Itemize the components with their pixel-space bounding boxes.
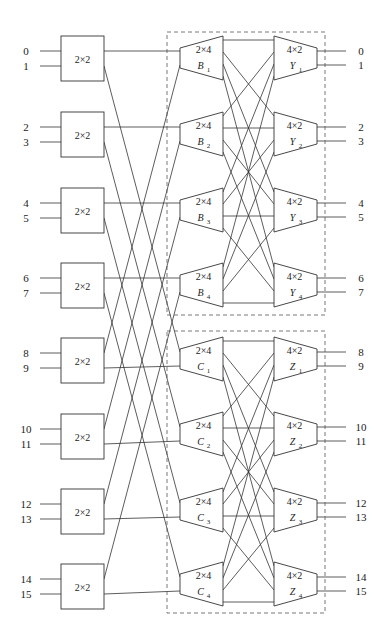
switch-label: 2×2 [75, 281, 91, 292]
output-label: 13 [356, 511, 368, 523]
mux-index-label: 2 [299, 442, 303, 450]
demux-module-C3 [180, 488, 223, 532]
input-label: 8 [23, 347, 29, 359]
input-label: 12 [21, 498, 32, 510]
mux-module-Z1 [274, 337, 317, 381]
switch-label: 2×2 [75, 356, 91, 367]
switch-label: 2×2 [75, 206, 91, 217]
demux-module-B1 [180, 36, 223, 80]
demux-index-label: 2 [207, 442, 211, 450]
mux-module-Y2 [274, 112, 317, 156]
mux-size-label: 4×2 [287, 271, 303, 282]
demux-index-label: 1 [207, 66, 211, 74]
demux-name-label: B [197, 212, 203, 223]
mux-size-label: 4×2 [287, 120, 303, 131]
mux-index-label: 1 [299, 66, 303, 74]
switch-to-demux-wire [104, 366, 180, 368]
demux-name-label: B [197, 60, 203, 71]
output-label: 11 [356, 435, 367, 447]
mux-index-label: 3 [299, 518, 303, 526]
switch-label: 2×2 [75, 130, 91, 141]
switch-label: 2×2 [75, 582, 91, 593]
output-label: 8 [358, 346, 364, 358]
demux-index-label: 4 [207, 293, 211, 301]
input-label: 14 [21, 573, 33, 585]
mux-index-label: 3 [299, 218, 303, 226]
demux-name-label: C [197, 586, 204, 597]
output-label: 15 [356, 585, 368, 597]
input-label: 7 [23, 287, 29, 299]
mux-index-label: 1 [299, 367, 303, 375]
output-label: 7 [358, 286, 364, 298]
demux-size-label: 2×4 [196, 196, 212, 207]
demux-module-C1 [180, 337, 223, 381]
demux-index-label: 4 [207, 592, 211, 600]
switch-nodes [61, 36, 317, 609]
demux-name-label: B [197, 136, 203, 147]
output-label: 9 [358, 360, 364, 372]
output-label: 3 [358, 135, 364, 147]
demux-name-label: C [197, 512, 204, 523]
mux-size-label: 4×2 [287, 196, 303, 207]
demux-size-label: 2×4 [196, 496, 212, 507]
mux-size-label: 4×2 [287, 496, 303, 507]
demux-name-label: C [197, 436, 204, 447]
demux-module-B2 [180, 112, 223, 156]
mux-size-label: 4×2 [287, 570, 303, 581]
demux-size-label: 2×4 [196, 44, 212, 55]
demux-name-label: B [197, 287, 203, 298]
switch-to-demux-wire [104, 517, 180, 519]
input-label: 13 [21, 513, 33, 525]
input-label: 10 [21, 423, 33, 435]
input-label: 6 [23, 272, 29, 284]
demux-module-B3 [180, 188, 223, 232]
demux-index-label: 2 [207, 142, 211, 150]
mux-module-Y3 [274, 188, 317, 232]
demux-module-C2 [180, 412, 223, 456]
demux-index-label: 3 [207, 218, 211, 226]
mux-module-Z3 [274, 488, 317, 532]
input-label: 2 [23, 121, 29, 133]
input-label: 1 [23, 60, 29, 72]
output-label: 14 [356, 571, 368, 583]
mux-size-label: 4×2 [287, 345, 303, 356]
output-label: 2 [358, 121, 364, 133]
demux-size-label: 2×4 [196, 271, 212, 282]
mux-size-label: 4×2 [287, 420, 303, 431]
switch-to-demux-wire [104, 441, 180, 444]
mux-module-Z2 [274, 412, 317, 456]
switch-label: 2×2 [75, 507, 91, 518]
demux-size-label: 2×4 [196, 420, 212, 431]
output-label: 10 [356, 421, 368, 433]
output-label: 5 [358, 211, 364, 223]
demux-size-label: 2×4 [196, 345, 212, 356]
mux-index-label: 4 [299, 293, 303, 301]
input-label: 3 [23, 136, 29, 148]
demux-size-label: 2×4 [196, 570, 212, 581]
mux-name-label: Z [290, 436, 296, 447]
demux-size-label: 2×4 [196, 120, 212, 131]
switch-label: 2×2 [75, 54, 91, 65]
demux-index-label: 3 [207, 518, 211, 526]
output-label: 0 [358, 45, 364, 57]
input-label: 11 [21, 438, 32, 450]
mux-name-label: Z [290, 361, 296, 372]
input-label: 0 [23, 45, 29, 57]
input-label: 9 [23, 362, 29, 374]
demux-module-B4 [180, 263, 223, 307]
mux-index-label: 4 [299, 592, 303, 600]
output-label: 6 [358, 272, 364, 284]
demux-name-label: C [197, 361, 204, 372]
input-label: 5 [23, 212, 29, 224]
output-label: 4 [358, 197, 364, 209]
mux-module-Z4 [274, 562, 317, 606]
input-label: 4 [23, 197, 29, 209]
input-label: 15 [21, 588, 33, 600]
mux-index-label: 2 [299, 142, 303, 150]
mux-module-Y1 [274, 36, 317, 80]
mux-module-Y4 [274, 263, 317, 307]
output-label: 12 [356, 497, 367, 509]
output-label: 1 [358, 59, 364, 71]
switching-network-diagram: 2×2012×2232×2452×2672×2892×210112×212132… [0, 0, 387, 643]
mux-name-label: Z [290, 586, 296, 597]
